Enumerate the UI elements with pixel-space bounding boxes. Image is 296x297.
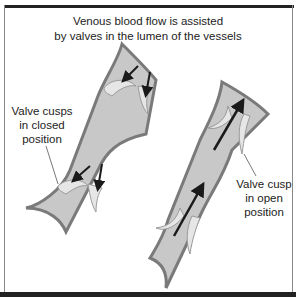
label-open-line-1: Valve cusp — [232, 177, 296, 191]
label-valve-open: Valve cusp in open position — [232, 177, 296, 219]
closed-leader-line — [46, 146, 58, 184]
label-closed-line-1: Valve cusps — [6, 104, 78, 118]
label-closed-line-2: in closed — [6, 118, 78, 132]
diagram-frame: Venous blood flow is assisted by valves … — [0, 0, 296, 297]
label-closed-line-3: position — [6, 132, 78, 146]
vein-illustration — [0, 0, 296, 297]
label-valve-closed: Valve cusps in closed position — [6, 104, 78, 146]
label-open-line-3: position — [232, 205, 296, 219]
open-leader-line — [244, 154, 256, 176]
label-open-line-2: in open — [232, 191, 296, 205]
